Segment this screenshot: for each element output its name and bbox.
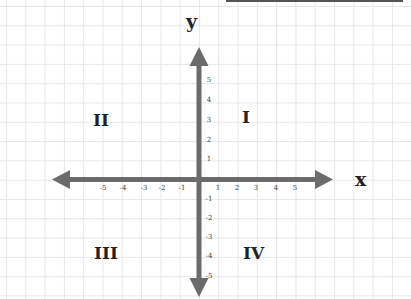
x-tick-label: -1 [179,184,186,192]
y-axis-down-arrowhead-icon [190,278,209,297]
y-tick-label: 4 [207,96,211,104]
y-tick-label: -5 [206,272,213,280]
x-tick-label: -5 [100,184,107,192]
quadrant-i-label: I [242,107,250,127]
x-tick-label: 1 [216,184,220,192]
y-axis-label: y [186,10,197,32]
x-axis-left-arrowhead-icon [52,170,70,189]
x-axis-right-arrowhead-icon [315,170,333,189]
y-tick-label: -3 [206,233,213,241]
quadrant-iii-label: III [94,243,118,263]
y-tick-label: 3 [207,116,211,124]
x-tick-label: 5 [293,184,297,192]
y-tick-label: 2 [207,136,211,144]
y-tick-label: 1 [207,155,211,163]
y-tick-label: -4 [206,252,213,260]
x-tick-label: 4 [274,184,278,192]
x-tick-label: -2 [159,184,166,192]
quadrant-iv-label: IV [243,243,264,263]
y-tick-label: -1 [206,195,213,203]
y-axis-up-arrowhead-icon [190,47,209,66]
x-axis-label: x [355,168,366,190]
x-tick-label: 3 [254,184,258,192]
x-axis-arrow [52,170,333,189]
quadrant-ii-label: II [93,110,109,130]
x-tick-label: -3 [141,184,148,192]
coordinate-plane: y x I II III IV -5 -4 -3 -2 -1 1 2 3 4 5… [0,0,411,299]
y-tick-label: -2 [206,214,213,222]
x-tick-label: -4 [120,184,127,192]
y-tick-label: 5 [207,76,211,84]
x-tick-label: 2 [235,184,239,192]
